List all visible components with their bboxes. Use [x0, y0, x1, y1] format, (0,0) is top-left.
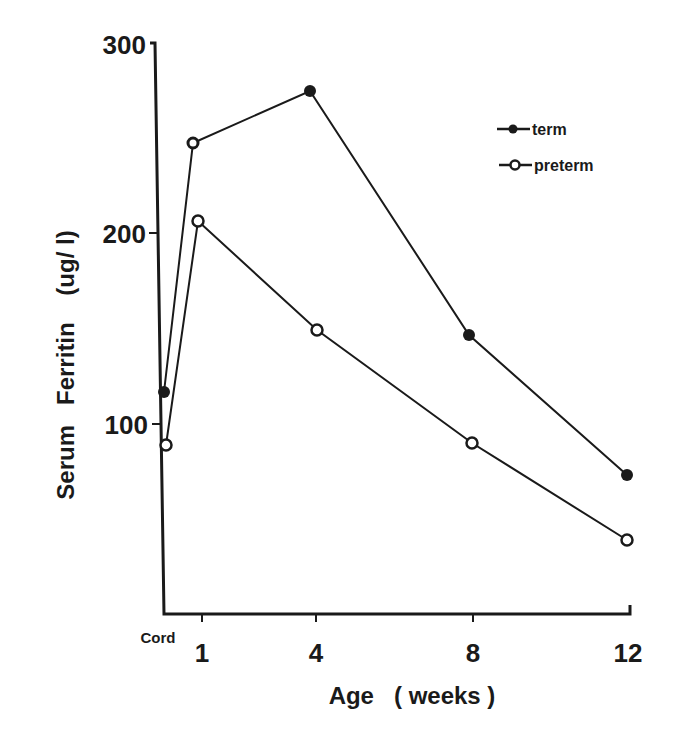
- y-axis-title: Serum Ferritin (ug/ l): [52, 230, 79, 499]
- term-point-4: [304, 85, 316, 97]
- preterm-point-12: [622, 535, 633, 546]
- term-point-1: [188, 138, 198, 148]
- legend: term preterm: [497, 121, 594, 174]
- series-preterm: [161, 216, 633, 546]
- legend-item-term: term: [497, 121, 567, 138]
- term-point-8: [463, 329, 475, 341]
- x-tick-label-cord: Cord: [141, 629, 176, 646]
- legend-term-label: term: [532, 121, 567, 138]
- ferritin-line-chart: 300 200 100 Cord 1 4 8 12 Age ( weeks ) …: [0, 0, 676, 746]
- preterm-point-1: [193, 216, 204, 227]
- legend-preterm-label: preterm: [534, 157, 594, 174]
- preterm-point-cord: [161, 440, 172, 451]
- y-tick-label-200: 200: [103, 219, 146, 249]
- x-tick-label-4: 4: [309, 638, 324, 668]
- y-tick-label-100: 100: [105, 410, 148, 440]
- series-term: [158, 85, 633, 481]
- legend-term-marker-icon: [509, 125, 518, 134]
- legend-preterm-marker-icon: [511, 161, 520, 170]
- y-tick-label-300: 300: [103, 30, 146, 60]
- x-tick-label-12: 12: [614, 638, 643, 668]
- term-point-cord: [158, 386, 170, 398]
- x-tick-label-8: 8: [466, 638, 480, 668]
- x-axis-title: Age ( weeks ): [329, 682, 496, 709]
- preterm-point-4: [312, 325, 323, 336]
- legend-item-preterm: preterm: [499, 157, 594, 174]
- x-tick-label-1: 1: [195, 638, 209, 668]
- term-line: [164, 91, 627, 475]
- preterm-line: [166, 221, 627, 540]
- term-point-12: [621, 469, 633, 481]
- preterm-point-8: [467, 438, 478, 449]
